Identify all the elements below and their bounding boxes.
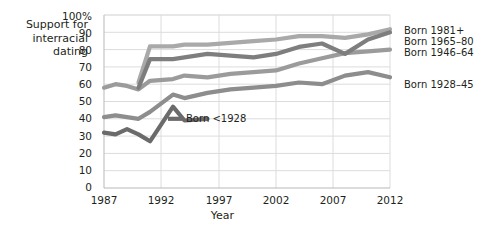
series-label-born-1928-45: Born 1928–45 <box>404 79 474 90</box>
x-tick-label-2002: 2002 <box>253 195 299 206</box>
x-axis-title-text: Year <box>211 209 234 222</box>
x-tick-label-1997: 1997 <box>196 195 242 206</box>
x-tick-label-1992: 1992 <box>138 195 184 206</box>
x-axis-title: Year <box>0 209 481 222</box>
x-tick-label-1987: 1987 <box>81 195 127 206</box>
x-tick-label-2012: 2012 <box>367 195 413 206</box>
series-label-born-1965-80: Born 1965–80 <box>404 36 474 47</box>
series-label-born-pre-1928: Born <1928 <box>186 113 246 124</box>
series-label-born-1946-64: Born 1946–64 <box>404 47 474 58</box>
series-label-born-1981: Born 1981+ <box>404 25 464 36</box>
x-tick-label-2007: 2007 <box>310 195 356 206</box>
series-born-1928-45 <box>104 72 390 119</box>
chart-figure: Support for interracial dating 100% 90 8… <box>0 0 481 227</box>
